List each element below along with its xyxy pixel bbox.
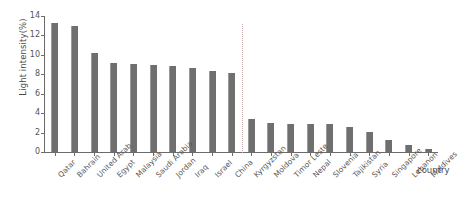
y-axis-title: Light intensity(%) bbox=[18, 2, 28, 112]
x-tick-mark bbox=[212, 153, 213, 156]
x-tick-mark bbox=[369, 153, 370, 156]
x-tick-label: Qatar bbox=[56, 158, 77, 179]
y-tick-mark bbox=[41, 74, 44, 75]
bar bbox=[248, 119, 255, 152]
bar-slot bbox=[51, 16, 58, 152]
x-tick-mark bbox=[55, 153, 56, 156]
y-tick-mark bbox=[41, 16, 44, 17]
bar bbox=[366, 132, 373, 152]
bar-chart-figure: Light intensity(%) 02468101214 QatarBahr… bbox=[0, 0, 465, 212]
bar bbox=[189, 68, 196, 152]
x-tick-mark bbox=[192, 153, 193, 156]
x-tick-mark bbox=[389, 153, 390, 156]
bar bbox=[267, 123, 274, 152]
y-tick-label: 12 bbox=[30, 31, 40, 39]
bar-slot bbox=[346, 16, 353, 152]
y-tick-mark bbox=[41, 152, 44, 153]
y-tick-label: 4 bbox=[35, 109, 40, 117]
x-tick-mark bbox=[291, 153, 292, 156]
x-axis-title: country bbox=[417, 165, 450, 175]
bar-slot bbox=[385, 16, 392, 152]
bar bbox=[110, 63, 117, 152]
bar-slot bbox=[425, 16, 432, 152]
bar bbox=[130, 64, 137, 152]
y-tick-mark bbox=[41, 55, 44, 56]
bar bbox=[385, 140, 392, 152]
bar-slot bbox=[267, 16, 274, 152]
bar-slot bbox=[228, 16, 235, 152]
x-tick-mark bbox=[94, 153, 95, 156]
y-tick-label: 2 bbox=[35, 129, 40, 137]
bar bbox=[228, 73, 235, 152]
y-tick-mark bbox=[41, 35, 44, 36]
x-tick-mark bbox=[251, 153, 252, 156]
bar bbox=[169, 66, 176, 152]
bar-slot bbox=[405, 16, 412, 152]
x-tick-mark bbox=[232, 153, 233, 156]
bar bbox=[150, 65, 157, 152]
x-tick-mark bbox=[428, 153, 429, 156]
x-tick-mark bbox=[330, 153, 331, 156]
bar-slot bbox=[248, 16, 255, 152]
x-tick-mark bbox=[74, 153, 75, 156]
bar bbox=[307, 124, 314, 152]
bar-slot bbox=[110, 16, 117, 152]
bar-slot bbox=[169, 16, 176, 152]
y-tick-label: 10 bbox=[30, 51, 40, 59]
plot-area: 02468101214 QatarBahrainUnited ArabEgypt… bbox=[44, 16, 438, 153]
bar-slot bbox=[307, 16, 314, 152]
group-divider-line bbox=[242, 24, 243, 153]
bar-slot bbox=[91, 16, 98, 152]
x-tick-label: Israel bbox=[213, 158, 234, 179]
x-tick-label: China bbox=[233, 158, 255, 180]
bar bbox=[287, 124, 294, 152]
y-tick-label: 8 bbox=[35, 70, 40, 78]
x-tick-mark bbox=[173, 153, 174, 156]
bar-slot bbox=[130, 16, 137, 152]
y-tick-mark bbox=[41, 133, 44, 134]
bar bbox=[51, 23, 58, 152]
bar-slot bbox=[287, 16, 294, 152]
bar bbox=[91, 53, 98, 152]
bar-slot bbox=[209, 16, 216, 152]
x-tick-mark bbox=[153, 153, 154, 156]
y-tick-label: 6 bbox=[35, 90, 40, 98]
bar-slot bbox=[326, 16, 333, 152]
x-tick-mark bbox=[114, 153, 115, 156]
bar bbox=[346, 127, 353, 152]
bar-slot bbox=[150, 16, 157, 152]
y-tick-mark bbox=[41, 94, 44, 95]
x-tick-mark bbox=[409, 153, 410, 156]
bar bbox=[209, 71, 216, 152]
y-tick-label: 0 bbox=[35, 148, 40, 156]
x-tick-mark bbox=[310, 153, 311, 156]
bar-slot bbox=[71, 16, 78, 152]
bar bbox=[71, 26, 78, 152]
y-tick-mark bbox=[41, 113, 44, 114]
bar-slot bbox=[189, 16, 196, 152]
x-tick-mark bbox=[271, 153, 272, 156]
x-tick-label: Iraq bbox=[193, 162, 210, 179]
bar-slot bbox=[366, 16, 373, 152]
x-tick-mark bbox=[133, 153, 134, 156]
y-tick-label: 14 bbox=[30, 12, 40, 20]
x-tick-mark bbox=[350, 153, 351, 156]
